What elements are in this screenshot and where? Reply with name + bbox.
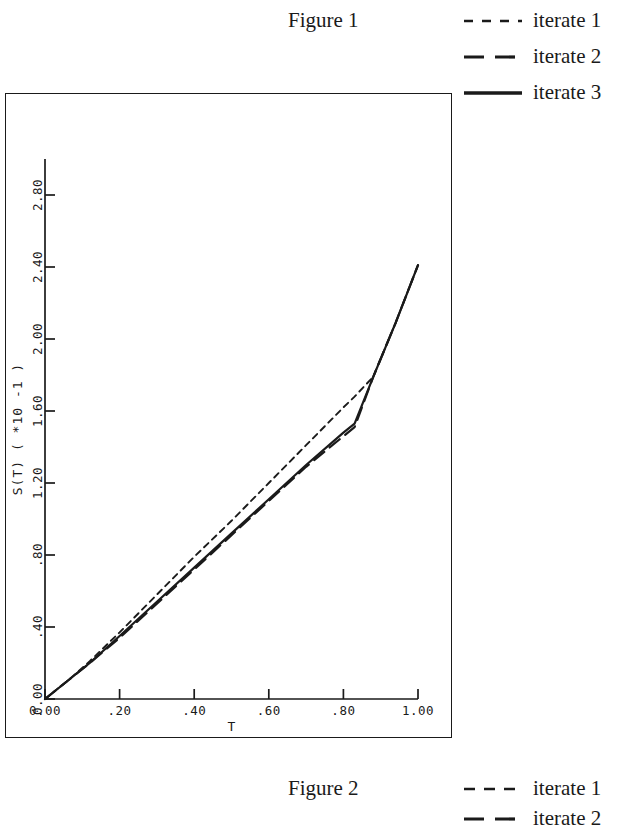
- x-axis-ticks: [45, 689, 418, 699]
- legend-bottom-item-iterate-2: iterate 2: [462, 806, 601, 829]
- solid-line-icon: [462, 86, 524, 100]
- data-series-layer: [45, 265, 418, 699]
- series-line-iterate-1: [45, 265, 418, 699]
- series-line-iterate-3: [45, 265, 418, 699]
- legend-top-item-iterate-1: iterate 1: [462, 8, 601, 33]
- x-tick-label: .20: [108, 703, 132, 718]
- x-tick-label: .80: [331, 703, 355, 718]
- x-axis-label: T: [228, 719, 237, 734]
- y-tick-label: 1.60: [30, 395, 45, 427]
- legend-bottom-item-iterate-1: iterate 1: [462, 776, 601, 801]
- legend-bottom-label-0: iterate 1: [533, 776, 601, 801]
- plot-axes: [45, 159, 418, 699]
- legend-top-label-2: iterate 3: [533, 80, 601, 105]
- x-tick-label: 0.00: [29, 703, 61, 718]
- y-axis-tick-labels: 0.00.40.801.201.602.002.402.80: [30, 179, 45, 715]
- y-axis-label: S(T) ( *10 -1 ): [10, 363, 25, 495]
- plot-canvas: 0.00.40.801.201.602.002.402.80 0.00.20.4…: [6, 94, 450, 736]
- y-axis-ticks: [45, 195, 55, 699]
- legend-top-item-iterate-2: iterate 2: [462, 44, 601, 69]
- y-tick-label: .40: [30, 615, 45, 639]
- y-tick-label: 2.00: [30, 323, 45, 355]
- y-tick-label: .80: [30, 543, 45, 567]
- x-tick-label: .40: [182, 703, 206, 718]
- x-tick-label: .60: [257, 703, 281, 718]
- legend-top-item-iterate-3: iterate 3: [462, 80, 601, 105]
- short-dash-line-icon: [462, 782, 524, 796]
- y-tick-label: 1.20: [30, 467, 45, 499]
- x-axis-tick-labels: 0.00.20.40.60.801.00: [29, 703, 434, 718]
- figure-1-plot-frame: 0.00.40.801.201.602.002.402.80 0.00.20.4…: [5, 93, 452, 738]
- legend-bottom-label-1: iterate 2: [533, 806, 601, 829]
- legend-top-label-0: iterate 1: [533, 8, 601, 33]
- long-dash-line-icon: [462, 50, 524, 64]
- y-tick-label: 2.40: [30, 251, 45, 283]
- legend-top-label-1: iterate 2: [533, 44, 601, 69]
- svg-text:S(T) ( *10 -1 ): S(T) ( *10 -1 ): [10, 363, 25, 495]
- x-tick-label: 1.00: [402, 703, 434, 718]
- series-line-iterate-2: [45, 265, 418, 699]
- figure-2-caption: Figure 2: [288, 776, 359, 801]
- short-dash-line-icon: [462, 14, 524, 28]
- y-tick-label: 2.80: [30, 179, 45, 211]
- figure-1-caption: Figure 1: [288, 8, 359, 33]
- long-dash-line-icon: [462, 812, 524, 826]
